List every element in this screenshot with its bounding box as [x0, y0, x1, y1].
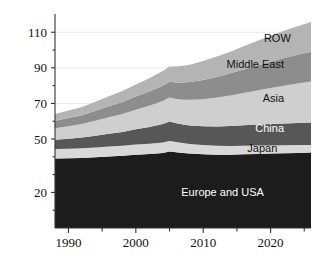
y-axis-tick-label: 20 — [34, 185, 47, 200]
chart-svg: 20507090110 1990200020102020 Europe and … — [0, 0, 324, 280]
stacked-area-chart: 20507090110 1990200020102020 Europe and … — [0, 0, 324, 280]
y-tick-labels: 20507090110 — [28, 25, 47, 200]
series-label-japan: Japan — [247, 142, 277, 154]
x-axis-tick-label: 2000 — [123, 235, 149, 250]
x-axis-tick-label: 2010 — [190, 235, 216, 250]
series-label-middle-east: Middle East — [227, 58, 284, 70]
y-axis-tick-label: 70 — [34, 96, 47, 111]
series-label-asia: Asia — [263, 92, 285, 104]
y-axis-tick-label: 110 — [28, 25, 47, 40]
y-axis-tick-label: 90 — [34, 60, 47, 75]
x-tick-labels: 1990200020102020 — [55, 235, 283, 250]
series-label-china: China — [255, 122, 285, 134]
series-label-europe-and-usa: Europe and USA — [181, 186, 264, 198]
series-label-row: ROW — [264, 32, 292, 44]
y-axis-tick-label: 50 — [34, 132, 47, 147]
x-axis-tick-label: 2020 — [258, 235, 284, 250]
x-axis-tick-label: 1990 — [55, 235, 81, 250]
